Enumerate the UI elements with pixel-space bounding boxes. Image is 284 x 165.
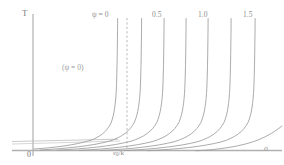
plot-canvas — [0, 0, 284, 165]
x-axis-label: σ — [264, 145, 268, 153]
tick-over-k: /k — [118, 149, 123, 157]
curve-family — [34, 19, 282, 151]
curve-label-0-5: 0.5 — [152, 11, 161, 19]
x-axis-tick-label-epsilon0-over-k: ε0/k — [113, 150, 124, 157]
y-axis-label: T — [22, 9, 28, 18]
curve-psi-0 — [34, 19, 118, 150]
curve-tail — [196, 126, 282, 151]
curve-label-psi-0: ψ = 0 — [92, 11, 108, 19]
axes-group — [12, 14, 282, 156]
curve-4 — [79, 19, 186, 151]
figure-container: T σ 0 ε0/k (ψ = 0) ψ = 0 0.5 1.0 1.5 — [0, 0, 284, 165]
curve-label-1-0: 1.0 — [198, 11, 207, 19]
curve-psi-05 — [57, 19, 164, 151]
interior-annotation-psi-zero: (ψ = 0) — [62, 64, 83, 72]
curve-label-1-5: 1.5 — [243, 11, 252, 19]
origin-label: 0 — [27, 151, 31, 159]
curve-2 — [40, 19, 142, 151]
